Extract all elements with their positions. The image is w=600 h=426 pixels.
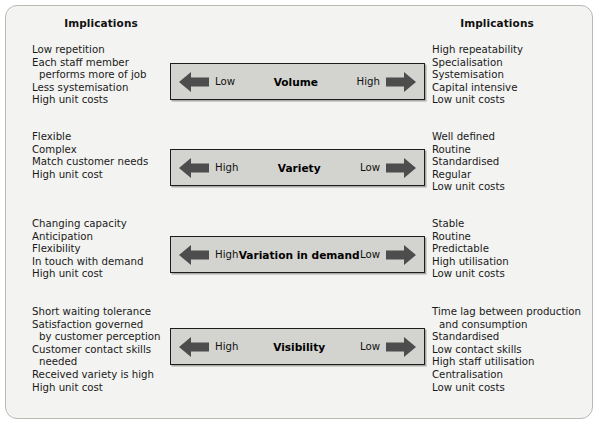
implication-line: High staff utilisation <box>432 356 593 369</box>
implication-line: Flexible <box>32 131 187 144</box>
implication-line: High unit cost <box>32 169 187 182</box>
bar-right-label: Low <box>360 162 380 173</box>
arrow-left-icon <box>179 336 209 358</box>
implication-line: Flexibility <box>32 243 187 256</box>
implication-line: Low unit costs <box>432 94 593 107</box>
implication-line: Complex <box>32 144 187 157</box>
implication-line: Well defined <box>432 131 593 144</box>
implication-line: High unit cost <box>32 268 187 281</box>
implication-line: Time lag between production <box>432 306 593 319</box>
bar-right-label: Low <box>360 249 380 260</box>
bar-left-label: High <box>215 249 238 260</box>
bar-right-label: Low <box>360 341 380 352</box>
implication-line: Standardised <box>432 156 593 169</box>
dimension-row-variation-in-demand: Changing capacityAnticipationFlexibility… <box>6 218 593 310</box>
implication-line: Customer contact skills <box>32 344 187 357</box>
bar-right-label: High <box>357 76 380 87</box>
implication-line: Low repetition <box>32 44 187 57</box>
dimension-bar-wrapper: Low Volume High <box>170 44 425 81</box>
dimension-bar-variety[interactable]: High Variety Low <box>170 149 425 186</box>
bar-left-label: Low <box>215 76 235 87</box>
right-implications-list: High repeatabilitySpecialisationSystemis… <box>432 44 593 107</box>
implication-line: Short waiting tolerance <box>32 306 187 319</box>
implication-line: performs more of job <box>32 69 187 82</box>
implication-line: Predictable <box>432 243 593 256</box>
bar-dimension-title: Variation in demand <box>238 249 360 261</box>
arrow-left-icon <box>179 244 209 266</box>
diagram-frame: Implications Implications Low repetition… <box>5 5 593 419</box>
dimension-bar-volume[interactable]: Low Volume High <box>170 63 425 100</box>
implication-line: Less systemisation <box>32 82 187 95</box>
implication-line: Each staff member <box>32 57 187 70</box>
dimension-row-visibility: Short waiting toleranceSatisfaction gove… <box>6 306 593 411</box>
right-implications-list: Well definedRoutineStandardisedRegularLo… <box>432 131 593 194</box>
arrow-left-icon <box>179 157 209 179</box>
implication-line: needed <box>32 356 187 369</box>
left-implications-list: Changing capacityAnticipationFlexibility… <box>32 218 187 281</box>
implication-line: High unit cost <box>32 382 187 395</box>
implication-line: Low contact skills <box>432 344 593 357</box>
implication-line: Centralisation <box>432 369 593 382</box>
bar-left-label: High <box>215 341 238 352</box>
dimension-row-variety: FlexibleComplexMatch customer needsHigh … <box>6 131 593 223</box>
dimension-bar-visibility[interactable]: High Visibility Low <box>170 328 425 365</box>
left-implications-list: Short waiting toleranceSatisfaction gove… <box>32 306 187 394</box>
dimension-bar-wrapper: High Variety Low <box>170 131 425 168</box>
dimension-bar-wrapper: High Variation in demand Low <box>170 218 425 255</box>
implication-line: High utilisation <box>432 256 593 269</box>
arrow-left-icon <box>179 71 209 93</box>
implication-line: and consumption <box>432 319 593 332</box>
dimension-row-volume: Low repetitionEach staff memberperforms … <box>6 44 593 136</box>
bar-dimension-title: Volume <box>235 76 357 88</box>
implication-line: Low unit costs <box>432 268 593 281</box>
bar-dimension-title: Visibility <box>238 341 360 353</box>
arrow-right-icon <box>386 157 416 179</box>
left-column-header: Implications <box>6 17 196 29</box>
implication-line: by customer perception <box>32 331 187 344</box>
implication-line: Changing capacity <box>32 218 187 231</box>
right-implications-list: StableRoutinePredictableHigh utilisation… <box>432 218 593 281</box>
implication-line: Capital intensive <box>432 82 593 95</box>
bar-left-label: High <box>215 162 238 173</box>
implication-line: Anticipation <box>32 231 187 244</box>
implication-line: Stable <box>432 218 593 231</box>
implication-line: Specialisation <box>432 57 593 70</box>
left-implications-list: FlexibleComplexMatch customer needsHigh … <box>32 131 187 181</box>
implication-line: Routine <box>432 144 593 157</box>
implication-line: Low unit costs <box>432 382 593 395</box>
arrow-right-icon <box>386 244 416 266</box>
right-implications-list: Time lag between productionand consumpti… <box>432 306 593 394</box>
implication-line: Match customer needs <box>32 156 187 169</box>
dimension-bar-wrapper: High Visibility Low <box>170 306 425 343</box>
implication-line: Low unit costs <box>432 181 593 194</box>
implication-line: High repeatability <box>432 44 593 57</box>
implication-line: Routine <box>432 231 593 244</box>
arrow-right-icon <box>386 336 416 358</box>
implication-line: Satisfaction governed <box>32 319 187 332</box>
dimension-bar-variation-in-demand[interactable]: High Variation in demand Low <box>170 236 425 273</box>
bar-dimension-title: Variety <box>238 162 360 174</box>
arrow-right-icon <box>386 71 416 93</box>
implication-line: Received variety is high <box>32 369 187 382</box>
left-implications-list: Low repetitionEach staff memberperforms … <box>32 44 187 107</box>
implication-line: Regular <box>432 169 593 182</box>
implication-line: In touch with demand <box>32 256 187 269</box>
implication-line: Standardised <box>432 331 593 344</box>
implication-line: High unit costs <box>32 94 187 107</box>
implication-line: Systemisation <box>432 69 593 82</box>
right-column-header: Implications <box>402 17 592 29</box>
